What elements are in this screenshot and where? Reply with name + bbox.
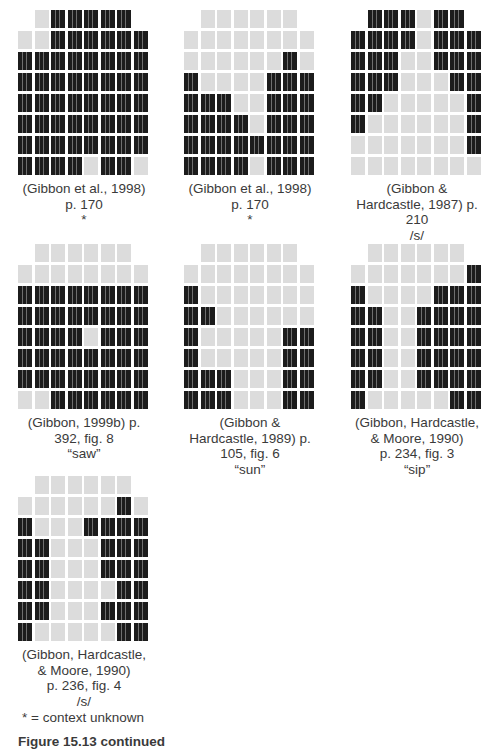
caption-line: (Gibbon & xyxy=(175,415,325,431)
palatogram-panel: (Gibbon &Hardcastle, 1987) p.210/s/ xyxy=(342,10,492,243)
electrode-no-contact xyxy=(434,73,448,91)
caption-line: * xyxy=(175,212,325,228)
electrode-contact xyxy=(134,602,148,620)
electrode-contact xyxy=(434,307,448,325)
electrode-no-contact xyxy=(401,286,415,304)
electrode-contact xyxy=(134,349,148,367)
electrode-contact xyxy=(68,10,82,28)
electrode-no-contact xyxy=(384,244,398,262)
electrode-no-contact xyxy=(35,265,49,283)
electrode-no-contact xyxy=(250,349,264,367)
electrode-contact xyxy=(450,52,464,70)
electrode-contact xyxy=(450,328,464,346)
electrode-no-contact xyxy=(51,476,65,494)
caption-line: Hardcastle, 1989) p. xyxy=(175,431,325,447)
electrode-contact xyxy=(68,349,82,367)
electrode-no-contact xyxy=(51,602,65,620)
electrode-contact xyxy=(467,73,481,91)
electrode-no-contact xyxy=(51,244,65,262)
electrode-contact xyxy=(368,307,382,325)
electrode-no-contact xyxy=(250,328,264,346)
caption-line: (Gibbon et al., 1998) xyxy=(9,181,159,197)
electrode-no-contact xyxy=(434,94,448,112)
electrode-no-contact xyxy=(401,157,415,175)
electrode-no-contact xyxy=(217,73,231,91)
electrode-no-contact xyxy=(217,328,231,346)
electrode-contact xyxy=(101,307,115,325)
caption-line: (Gibbon, 1999b) p. xyxy=(9,415,159,431)
electrode-contact xyxy=(283,136,297,154)
electrode-contact xyxy=(283,391,297,409)
caption-line: p. 170 xyxy=(9,197,159,213)
electrode-contact xyxy=(134,518,148,536)
electrode-no-contact xyxy=(217,244,231,262)
caption-line: “saw” xyxy=(9,446,159,462)
electrode-contact xyxy=(368,370,382,388)
electrode-contact xyxy=(101,518,115,536)
electrode-contact xyxy=(201,370,215,388)
electrode-contact xyxy=(84,307,98,325)
palatogram-caption: (Gibbon, Hardcastle,& Moore, 1990)p. 236… xyxy=(9,647,159,709)
electrode-contact xyxy=(35,370,49,388)
electrode-no-contact xyxy=(35,476,49,494)
electrode-no-contact xyxy=(401,244,415,262)
electrode-no-contact xyxy=(217,265,231,283)
electrode-contact xyxy=(35,94,49,112)
electrode-contact xyxy=(18,136,32,154)
electrode-no-contact xyxy=(250,73,264,91)
electrode-contact xyxy=(450,10,464,28)
electrode-contact xyxy=(51,349,65,367)
electrode-no-contact xyxy=(267,31,281,49)
caption-line: (Gibbon, Hardcastle, xyxy=(342,415,492,431)
electrode-contact xyxy=(351,370,365,388)
electrode-no-contact xyxy=(101,265,115,283)
electrode-contact xyxy=(68,328,82,346)
electrode-contact xyxy=(101,115,115,133)
electrode-contact xyxy=(68,307,82,325)
electrode-grid xyxy=(351,244,483,412)
electrode-no-contact xyxy=(417,52,431,70)
electrode-no-contact xyxy=(368,157,382,175)
electrode-contact xyxy=(450,307,464,325)
electrode-no-contact xyxy=(417,157,431,175)
electrode-no-contact xyxy=(68,244,82,262)
electrode-contact xyxy=(300,157,314,175)
electrode-contact xyxy=(351,94,365,112)
electrode-contact xyxy=(51,286,65,304)
caption-line: /s/ xyxy=(9,694,159,710)
electrode-contact xyxy=(217,136,231,154)
electrode-contact xyxy=(35,157,49,175)
electrode-contact xyxy=(467,391,481,409)
electrode-no-contact xyxy=(117,244,131,262)
electrode-contact xyxy=(434,52,448,70)
electrode-no-contact xyxy=(450,94,464,112)
electrode-no-contact xyxy=(401,52,415,70)
electrode-contact xyxy=(201,391,215,409)
electrode-contact xyxy=(117,286,131,304)
electrode-no-contact xyxy=(250,265,264,283)
electrode-contact xyxy=(117,581,131,599)
electrode-contact xyxy=(384,73,398,91)
electrode-no-contact xyxy=(68,518,82,536)
electrode-grid xyxy=(351,10,483,178)
electrode-no-contact xyxy=(434,136,448,154)
electrode-no-contact xyxy=(68,560,82,578)
electrode-no-contact xyxy=(117,476,131,494)
legend-note: * = context unknown xyxy=(22,710,144,725)
electrode-contact xyxy=(51,136,65,154)
electrode-contact xyxy=(368,73,382,91)
electrode-contact xyxy=(351,52,365,70)
caption-line: /s/ xyxy=(342,228,492,244)
electrode-no-contact xyxy=(234,10,248,28)
electrode-no-contact xyxy=(384,286,398,304)
electrode-no-contact xyxy=(234,349,248,367)
electrode-contact xyxy=(450,73,464,91)
electrode-contact xyxy=(467,370,481,388)
electrode-contact xyxy=(18,52,32,70)
electrode-no-contact xyxy=(217,286,231,304)
electrode-contact xyxy=(467,349,481,367)
electrode-no-contact xyxy=(35,623,49,641)
electrode-no-contact xyxy=(434,391,448,409)
electrode-no-contact xyxy=(250,52,264,70)
electrode-contact xyxy=(18,328,32,346)
